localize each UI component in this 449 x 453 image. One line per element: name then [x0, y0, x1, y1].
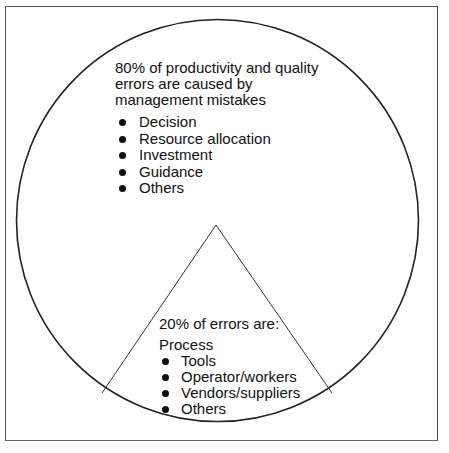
list-item: Vendors/suppliers	[159, 385, 300, 401]
bullet-icon	[162, 390, 169, 397]
segment-heading: 20% of errors are:	[159, 316, 300, 332]
list-item-label: Operator/workers	[181, 368, 297, 385]
segment-heading-line: errors are caused by	[115, 76, 318, 92]
list-item-label: Resource allocation	[139, 130, 271, 147]
bullet-icon	[119, 119, 126, 126]
process-errors-segment: 20% of errors are: Process Tools Operato…	[159, 316, 300, 417]
bullet-icon	[119, 169, 126, 176]
bullet-icon	[119, 152, 126, 159]
bullet-icon	[162, 358, 169, 365]
list-item: Tools	[159, 353, 300, 369]
list-item: Decision	[115, 114, 318, 131]
list-item: Resource allocation	[115, 131, 318, 148]
list-item-label: Others	[181, 400, 226, 417]
list-item-label: Guidance	[139, 163, 203, 180]
segment-subheading: Process	[159, 337, 300, 353]
segment-heading-line: management mistakes	[115, 92, 318, 108]
list-item-label: Investment	[139, 146, 212, 163]
list-item: Guidance	[115, 164, 318, 181]
process-errors-list: Tools Operator/workers Vendors/suppliers…	[159, 353, 300, 417]
list-item: Others	[115, 180, 318, 197]
bullet-icon	[119, 185, 126, 192]
management-errors-segment: 80% of productivity and quality errors a…	[115, 60, 318, 197]
list-item-label: Others	[139, 179, 184, 196]
bullet-icon	[162, 406, 169, 413]
list-item-label: Vendors/suppliers	[181, 384, 300, 401]
list-item: Others	[159, 401, 300, 417]
segment-heading-line: 80% of productivity and quality	[115, 60, 318, 76]
bullet-icon	[119, 136, 126, 143]
management-mistakes-list: Decision Resource allocation Investment …	[115, 114, 318, 197]
list-item-label: Decision	[139, 113, 197, 130]
list-item: Operator/workers	[159, 369, 300, 385]
bullet-icon	[162, 374, 169, 381]
list-item: Investment	[115, 147, 318, 164]
list-item-label: Tools	[181, 352, 216, 369]
